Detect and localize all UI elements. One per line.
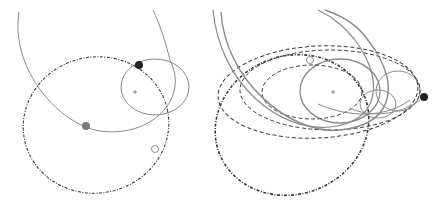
right-orbit-dashed-4 bbox=[240, 50, 420, 130]
orbit-diagram bbox=[0, 0, 440, 202]
right-orbit-dashed-3 bbox=[262, 65, 362, 119]
panel-left-orbits bbox=[10, 10, 189, 202]
left-orbit-dashdot-2 bbox=[10, 43, 181, 202]
hollow-body-marker bbox=[307, 57, 314, 64]
left-orbit-solid-1 bbox=[18, 10, 175, 132]
center-plus-icon bbox=[331, 90, 335, 94]
panel-right-orbits bbox=[194, 10, 428, 202]
left-orbit-solid-0 bbox=[121, 59, 189, 115]
dark-body-marker bbox=[135, 61, 143, 69]
gray-body-marker bbox=[82, 122, 90, 130]
hollow-body-marker bbox=[152, 146, 159, 153]
orbit-figure-canvas bbox=[0, 0, 440, 202]
center-plus-icon bbox=[133, 90, 137, 94]
dark-body-marker bbox=[420, 93, 428, 101]
